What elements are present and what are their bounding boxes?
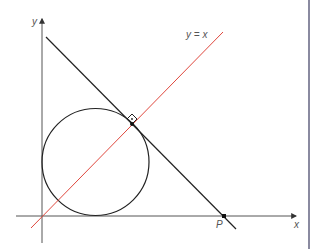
x-axis-label: x (293, 219, 300, 230)
point-p-marker (222, 214, 226, 218)
point-p-label: P (216, 219, 223, 230)
diagram-canvas: y x y = x P (0, 0, 311, 249)
tangent-line (46, 37, 236, 229)
line-label: y = x (185, 29, 208, 40)
y-axis-label: y (31, 16, 38, 27)
line-y-equals-x (31, 32, 223, 228)
tangent-point (130, 122, 134, 126)
